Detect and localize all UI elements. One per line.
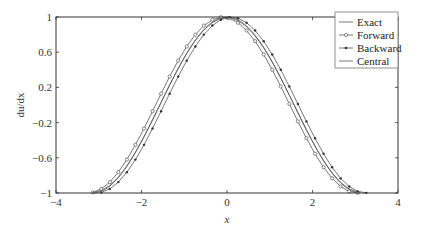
series-exact: [93, 17, 360, 193]
marker-backward: [245, 22, 247, 24]
plot-lines: [91, 16, 367, 195]
marker-backward: [160, 110, 162, 112]
legend-item-central: Central: [357, 55, 389, 67]
marker-backward: [305, 120, 307, 122]
y-tick-label: −0.6: [32, 152, 52, 164]
marker-backward: [168, 92, 170, 94]
marker-forward: [159, 92, 162, 95]
marker-backward: [348, 185, 350, 187]
legend: ExactForwardBackwardCentral: [335, 12, 402, 68]
marker-forward: [322, 166, 325, 169]
marker-backward: [314, 137, 316, 139]
x-axis-label: x: [224, 213, 230, 225]
marker-forward: [271, 68, 274, 71]
x-tick-label: 0: [224, 196, 230, 208]
marker-forward: [108, 180, 111, 183]
marker-forward: [142, 127, 145, 130]
marker-forward: [296, 120, 299, 123]
marker-backward: [254, 29, 256, 31]
y-axis-label: du/dx: [14, 92, 26, 118]
legend-item-exact: Exact: [357, 16, 382, 28]
marker-backward: [117, 181, 119, 183]
marker-backward: [280, 69, 282, 71]
marker-forward: [254, 40, 257, 43]
marker-forward: [245, 29, 248, 32]
y-tick-label: 0.2: [38, 81, 52, 93]
series-central: [93, 18, 358, 193]
marker-forward: [177, 59, 180, 62]
x-tick-label: −2: [136, 196, 148, 208]
legend-item-forward: Forward: [357, 29, 395, 41]
marker-forward: [262, 53, 265, 56]
marker-backward: [194, 45, 196, 47]
marker-forward: [194, 33, 197, 36]
marker-forward: [339, 185, 342, 188]
marker-forward: [117, 171, 120, 174]
x-tick-label: 4: [395, 196, 401, 208]
marker-backward: [151, 127, 153, 129]
marker-forward: [313, 152, 316, 155]
legend-item-backward: Backward: [357, 42, 402, 54]
marker-backward: [331, 166, 333, 168]
y-tick-label: −1: [40, 187, 52, 199]
marker-forward: [168, 75, 171, 78]
marker-forward: [330, 177, 333, 180]
marker-forward: [202, 24, 205, 27]
marker-backward: [143, 144, 145, 146]
marker-forward: [125, 158, 128, 161]
series-forward: [93, 17, 358, 193]
marker-forward: [305, 137, 308, 140]
marker-backward: [339, 177, 341, 179]
y-tick-label: 1: [47, 11, 53, 23]
marker-backward: [186, 59, 188, 61]
marker-backward: [109, 188, 111, 190]
marker-backward: [322, 153, 324, 155]
marker-backward: [288, 85, 290, 87]
y-tick-label: −0.2: [32, 117, 52, 129]
marker-forward: [279, 85, 282, 88]
series-backward: [101, 17, 366, 193]
marker-forward: [134, 143, 137, 146]
marker-forward: [211, 18, 214, 21]
marker-backward: [211, 24, 213, 26]
chart: −4−202410.60.2−0.2−0.6−1 x du/dx ExactFo…: [0, 0, 422, 230]
marker-forward: [185, 45, 188, 48]
marker-backward: [297, 103, 299, 105]
marker-backward: [203, 33, 205, 35]
marker-backward: [134, 158, 136, 160]
marker-backward: [126, 171, 128, 173]
marker-backward: [177, 75, 179, 77]
marker-forward: [288, 102, 291, 105]
marker-forward: [151, 110, 154, 113]
marker-backward: [271, 53, 273, 55]
y-tick-label: 0.6: [38, 46, 52, 58]
x-tick-label: 2: [310, 196, 316, 208]
marker-backward: [262, 40, 264, 42]
